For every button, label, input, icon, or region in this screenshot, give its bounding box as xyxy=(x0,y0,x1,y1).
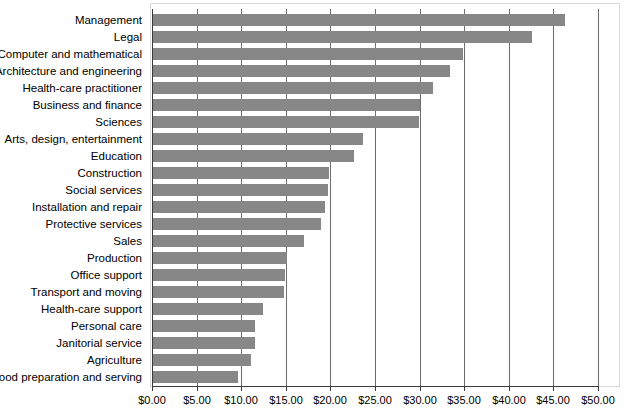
y-axis-line xyxy=(152,9,153,387)
category-label: Transport and moving xyxy=(31,284,142,301)
bar xyxy=(152,167,329,179)
x-axis-tick xyxy=(464,386,465,391)
gridline xyxy=(509,9,510,386)
x-axis-tick xyxy=(553,386,554,391)
category-label: Food preparation and serving xyxy=(0,369,142,386)
x-axis-tick-labels: $0.00$5.00$10.00$15.00$20.00$25.00$30.00… xyxy=(0,393,624,411)
plot-area xyxy=(152,9,598,386)
category-label: Production xyxy=(87,250,142,267)
category-label: Protective services xyxy=(45,216,142,233)
category-label: Social services xyxy=(65,182,142,199)
bar xyxy=(152,150,354,162)
bar xyxy=(152,235,304,247)
bar xyxy=(152,269,285,281)
bar xyxy=(152,116,419,128)
category-label: Education xyxy=(91,148,142,165)
x-axis-tick xyxy=(598,386,599,391)
category-label: Health-care practitioner xyxy=(22,80,142,97)
gridline xyxy=(598,9,599,386)
category-axis: ManagementLegalComputer and mathematical… xyxy=(0,12,146,386)
bar xyxy=(152,337,255,349)
x-axis-tick xyxy=(197,386,198,391)
bar xyxy=(152,303,263,315)
bar xyxy=(152,14,565,26)
category-label: Personal care xyxy=(71,318,142,335)
x-axis-tick-label: $0.00 xyxy=(138,393,166,407)
category-label: Legal xyxy=(114,29,142,46)
x-axis-tick xyxy=(330,386,331,391)
bar xyxy=(152,133,363,145)
bar xyxy=(152,286,284,298)
category-label: Sciences xyxy=(95,114,142,131)
bar xyxy=(152,48,463,60)
bar xyxy=(152,82,433,94)
x-axis-tick-label: $20.00 xyxy=(313,393,347,407)
bar xyxy=(152,252,287,264)
x-axis-tick-label: $10.00 xyxy=(224,393,258,407)
x-axis-tick xyxy=(152,386,153,391)
category-label: Sales xyxy=(113,233,142,250)
x-axis-tick xyxy=(241,386,242,391)
bar xyxy=(152,184,328,196)
x-axis-tick-label: $45.00 xyxy=(536,393,570,407)
x-axis-tick xyxy=(420,386,421,391)
x-axis-tick xyxy=(286,386,287,391)
bar xyxy=(152,31,532,43)
x-axis-tick-label: $40.00 xyxy=(492,393,526,407)
category-label: Computer and mathematical xyxy=(0,46,142,63)
category-label: Business and finance xyxy=(33,97,142,114)
bar xyxy=(152,218,321,230)
x-axis-tick-label: $50.00 xyxy=(581,393,615,407)
category-label: Arts, design, entertainment xyxy=(5,131,142,148)
gridline xyxy=(553,9,554,386)
category-label: Architecture and engineering xyxy=(0,63,142,80)
x-axis-tick-label: $5.00 xyxy=(183,393,211,407)
bar xyxy=(152,65,450,77)
gridline xyxy=(464,9,465,386)
x-axis-tick xyxy=(375,386,376,391)
x-axis-tick xyxy=(509,386,510,391)
category-label: Health-care support xyxy=(41,301,142,318)
category-label: Office support xyxy=(71,267,142,284)
horizontal-bar-chart: ManagementLegalComputer and mathematical… xyxy=(0,0,624,413)
category-label: Agriculture xyxy=(87,352,142,369)
x-axis-tick-label: $25.00 xyxy=(358,393,392,407)
bar xyxy=(152,371,238,383)
x-axis-tick-label: $30.00 xyxy=(403,393,437,407)
bar xyxy=(152,354,251,366)
bar xyxy=(152,201,325,213)
category-label: Management xyxy=(75,12,142,29)
category-label: Janitorial service xyxy=(56,335,142,352)
bar xyxy=(152,320,255,332)
category-label: Construction xyxy=(77,165,142,182)
bar xyxy=(152,99,420,111)
x-axis-tick-label: $15.00 xyxy=(269,393,303,407)
category-label: Installation and repair xyxy=(32,199,142,216)
x-axis-tick-label: $35.00 xyxy=(447,393,481,407)
